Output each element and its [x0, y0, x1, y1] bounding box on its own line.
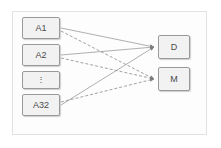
node-m-label: M: [170, 75, 178, 84]
vertical-ellipsis-icon: ⋮: [37, 76, 45, 84]
diagram-canvas: A1 A2 ⋮ A32 D M: [0, 0, 221, 148]
node-a32-label: A32: [33, 101, 49, 110]
edges-dashed-to-m: [61, 31, 154, 102]
edges-solid-to-d: [61, 28, 154, 105]
node-m[interactable]: M: [158, 67, 190, 91]
node-a2[interactable]: A2: [22, 44, 60, 66]
edge-a1-to-m: [61, 31, 154, 79]
edge-a1-to-d: [61, 28, 154, 47]
edge-a2-to-d: [61, 47, 154, 55]
node-ellipsis: ⋮: [22, 71, 60, 89]
node-a1-label: A1: [35, 24, 46, 33]
node-a2-label: A2: [35, 51, 46, 60]
node-a32[interactable]: A32: [22, 94, 60, 116]
edge-a32-to-m: [61, 79, 154, 102]
node-a1[interactable]: A1: [22, 17, 60, 39]
node-d-label: D: [171, 43, 178, 52]
node-d[interactable]: D: [158, 35, 190, 59]
